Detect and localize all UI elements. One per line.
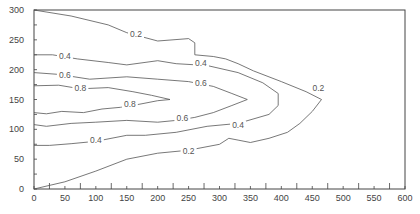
y-tick-label: 50 [14, 154, 24, 164]
x-tick-label: 300 [212, 193, 227, 203]
contour-label: 0.4 [90, 135, 102, 145]
x-tick-label: 0 [31, 193, 36, 203]
contour-label: 0.4 [195, 58, 207, 68]
contour-label: 0.6 [195, 78, 207, 88]
x-tick-label: 550 [367, 193, 382, 203]
contour-label: 0.8 [124, 99, 136, 109]
contour-lines: 0.20.20.20.40.40.40.40.60.60.60.80.8 [34, 10, 326, 189]
contour-plot: 050100150200250300350400450500550600 050… [0, 0, 420, 214]
x-tick-label: 100 [88, 193, 103, 203]
x-axis: 050100150200250300350400450500550600 [31, 183, 412, 203]
y-axis: 050100150200250300 [9, 5, 37, 194]
x-tick-label: 50 [60, 193, 70, 203]
x-tick-label: 350 [243, 193, 258, 203]
y-tick-label: 100 [9, 124, 24, 134]
contour-label: 0.2 [313, 83, 325, 93]
contour-label: 0.6 [59, 70, 71, 80]
x-tick-label: 150 [119, 193, 134, 203]
contour-line-0-8 [34, 85, 170, 114]
y-tick-label: 250 [9, 35, 24, 45]
y-tick-label: 150 [9, 95, 24, 105]
contour-line-0-4 [34, 55, 278, 146]
contour-label: 0.4 [59, 51, 71, 61]
x-tick-label: 450 [305, 193, 320, 203]
contour-label: 0.2 [130, 29, 142, 39]
y-tick-label: 0 [19, 184, 24, 194]
x-tick-label: 250 [181, 193, 196, 203]
contour-label: 0.2 [183, 146, 195, 156]
x-tick-label: 500 [336, 193, 351, 203]
y-tick-label: 200 [9, 65, 24, 75]
x-tick-label: 600 [397, 193, 412, 203]
plot-frame [34, 10, 405, 189]
contour-label: 0.6 [176, 113, 188, 123]
x-tick-label: 200 [150, 193, 165, 203]
x-tick-label: 400 [274, 193, 289, 203]
y-tick-label: 300 [9, 5, 24, 15]
contour-line-0-6 [34, 73, 247, 127]
contour-label: 0.4 [232, 120, 244, 130]
contour-label: 0.8 [74, 83, 86, 93]
